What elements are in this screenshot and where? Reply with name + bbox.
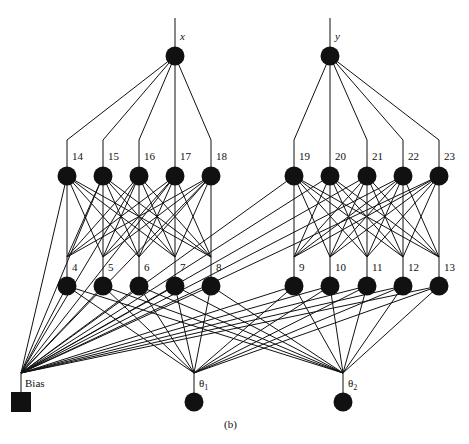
output-label-x: x	[179, 30, 185, 42]
hidden-node-21	[358, 167, 377, 186]
hidden-node-16	[130, 167, 149, 186]
edge	[139, 56, 175, 140]
node-label-5: 5	[108, 261, 114, 273]
node-label-14: 14	[72, 150, 84, 162]
hidden-node-13	[430, 277, 449, 296]
hidden-node-9	[285, 277, 304, 296]
node-label-11: 11	[372, 261, 383, 273]
network-graph: xy1415161718192021222345678910111213θ1θ2…	[0, 0, 469, 444]
edge	[139, 286, 343, 373]
edge	[103, 286, 343, 373]
edge	[21, 176, 403, 373]
hidden-node-18	[202, 167, 221, 186]
bias-label: Bias	[25, 377, 45, 389]
edge	[194, 286, 330, 373]
edge	[343, 286, 439, 373]
input-node-theta1	[185, 393, 204, 412]
node-label-8: 8	[216, 261, 222, 273]
edge	[294, 56, 330, 140]
edge	[194, 286, 403, 373]
neural-network-diagram: xy1415161718192021222345678910111213θ1θ2…	[0, 0, 469, 444]
edge	[330, 56, 367, 140]
output-node-x	[166, 47, 185, 66]
edge	[67, 56, 175, 140]
node-label-4: 4	[72, 261, 78, 273]
hidden-node-10	[321, 277, 340, 296]
node-label-22: 22	[408, 150, 419, 162]
node-label-6: 6	[144, 261, 150, 273]
node-label-15: 15	[108, 150, 120, 162]
hidden-node-14	[58, 167, 77, 186]
node-label-16: 16	[144, 150, 156, 162]
output-label-y: y	[334, 30, 340, 42]
edge	[175, 56, 211, 140]
hidden-node-7	[166, 277, 185, 296]
node-label-9: 9	[299, 261, 305, 273]
input-label-theta1: θ1	[199, 377, 208, 392]
node-label-21: 21	[372, 150, 383, 162]
output-node-y	[321, 47, 340, 66]
hidden-node-4	[58, 277, 77, 296]
edge	[343, 286, 403, 373]
hidden-node-15	[94, 167, 113, 186]
figure-caption: (b)	[224, 418, 237, 430]
node-label-17: 17	[180, 150, 192, 162]
hidden-node-19	[285, 167, 304, 186]
edge	[330, 56, 439, 140]
hidden-node-20	[321, 167, 340, 186]
edge	[194, 286, 294, 373]
hidden-node-8	[202, 277, 221, 296]
hidden-node-17	[166, 167, 185, 186]
hidden-node-5	[94, 277, 113, 296]
node-label-7: 7	[180, 261, 186, 273]
edges	[21, 18, 439, 402]
node-label-23: 23	[444, 150, 456, 162]
hidden-node-12	[394, 277, 413, 296]
node-label-12: 12	[408, 261, 419, 273]
bias-node	[11, 392, 31, 412]
node-label-18: 18	[216, 150, 228, 162]
node-label-20: 20	[335, 150, 347, 162]
hidden-node-6	[130, 277, 149, 296]
edge	[103, 56, 175, 140]
hidden-node-11	[358, 277, 377, 296]
edge	[330, 56, 403, 140]
edge	[139, 286, 194, 373]
input-node-theta2	[334, 393, 353, 412]
node-label-10: 10	[335, 261, 347, 273]
node-label-13: 13	[444, 261, 456, 273]
hidden-node-22	[394, 167, 413, 186]
input-label-theta2: θ2	[348, 377, 357, 392]
node-label-19: 19	[299, 150, 311, 162]
hidden-node-23	[430, 167, 449, 186]
